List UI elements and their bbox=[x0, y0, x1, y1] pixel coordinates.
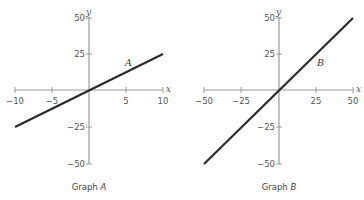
graph-b-x-tick-label: 25 bbox=[311, 96, 322, 106]
charts-canvas: −10 −5 5 10 50 25 −25 −50 x y A Graph A bbox=[0, 0, 364, 200]
graph-b-series-label: B bbox=[316, 57, 324, 68]
graph-a-x-axis-label: x bbox=[166, 84, 171, 94]
graph-b-caption: Graph B bbox=[262, 182, 297, 192]
graph-a-x-tick-label: 10 bbox=[158, 96, 169, 106]
graph-b-y-tick-label: −50 bbox=[257, 159, 275, 169]
graph-b-y-tick-label: 25 bbox=[264, 49, 275, 59]
graph-a-y-tick-label: 50 bbox=[74, 13, 85, 23]
graph-a-x-tick-label: 5 bbox=[123, 96, 128, 106]
graph-b-y-tick-label: 50 bbox=[264, 13, 275, 23]
graph-a-caption: Graph A bbox=[72, 182, 107, 192]
graph-b-x-tick-label: 50 bbox=[348, 96, 359, 106]
graph-a-x-tick-label: −10 bbox=[6, 96, 24, 106]
graph-a-x-tick-label: −5 bbox=[46, 96, 59, 106]
graph-a-y-axis-label: y bbox=[85, 7, 92, 17]
graph-b-y-tick-label: −25 bbox=[257, 122, 275, 132]
graph-a: −10 −5 5 10 50 25 −25 −50 x y A Graph A bbox=[6, 7, 171, 192]
graph-b-x-axis-label: x bbox=[356, 84, 361, 94]
graph-a-y-tick-label: 25 bbox=[74, 49, 85, 59]
graph-b-x-tick-label: −50 bbox=[195, 96, 213, 106]
graph-b-y-axis-label: y bbox=[275, 7, 282, 17]
graph-a-y-tick-label: −50 bbox=[67, 159, 85, 169]
graph-b: −50 −25 25 50 50 25 −25 −50 x y B Graph … bbox=[195, 7, 361, 192]
graph-b-x-tick-label: −25 bbox=[232, 96, 250, 106]
graph-a-y-tick-label: −25 bbox=[67, 122, 85, 132]
graph-a-series-label: A bbox=[124, 57, 132, 68]
